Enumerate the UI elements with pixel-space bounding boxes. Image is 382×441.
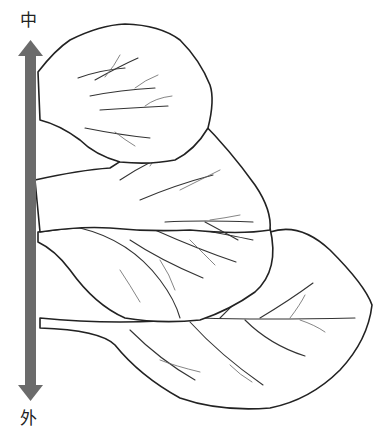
label-inner: 中 — [20, 12, 37, 29]
leaf-inner — [38, 24, 212, 163]
arrow-head-up-icon — [18, 40, 43, 56]
arrow-head-down-icon — [18, 385, 43, 401]
leaf-diagram — [0, 0, 382, 441]
label-outer: 外 — [20, 410, 37, 427]
